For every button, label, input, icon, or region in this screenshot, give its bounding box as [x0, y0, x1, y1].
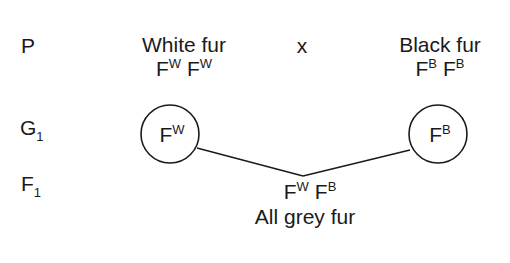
allele-superscript: B	[328, 179, 337, 194]
fertilisation-line-right	[303, 150, 410, 176]
fertilisation-line-left	[197, 148, 303, 176]
allele-base: F	[315, 180, 328, 203]
gametes-label-text: G	[20, 116, 36, 139]
parents-label-text: P	[21, 34, 35, 57]
offspring-phenotype: All grey fur	[255, 206, 355, 227]
allele-superscript: B	[442, 122, 451, 137]
cross-symbol: x	[297, 35, 308, 56]
allele-base: F	[416, 57, 429, 80]
allele-superscript: W	[297, 179, 309, 194]
f1-label-subscript: 1	[34, 185, 41, 200]
parent-left-genotype: FWFW	[156, 58, 212, 79]
f1-label-text: F	[21, 172, 34, 195]
allele-base: F	[284, 180, 297, 203]
allele-base: F	[156, 57, 169, 80]
parent-right-genotype: FBFB	[416, 58, 465, 79]
allele-superscript: W	[172, 122, 184, 137]
parent-left-phenotype: White fur	[142, 34, 226, 55]
offspring-genotype: FWFB	[284, 181, 337, 202]
gamete-left-allele: FW	[159, 124, 184, 145]
allele-superscript: W	[200, 56, 212, 71]
gametes-label-subscript: 1	[36, 129, 43, 144]
allele-superscript: W	[169, 56, 181, 71]
allele-base: F	[429, 123, 442, 146]
gamete-right-allele: FB	[429, 124, 451, 145]
allele-base: F	[443, 57, 456, 80]
row-label-gametes: G1	[20, 117, 44, 138]
row-label-f1: F1	[21, 173, 41, 194]
parent-right-phenotype: Black fur	[399, 34, 481, 55]
allele-superscript: B	[428, 56, 437, 71]
allele-base: F	[159, 123, 172, 146]
allele-superscript: B	[456, 56, 465, 71]
allele-base: F	[187, 57, 200, 80]
row-label-parents: P	[21, 35, 35, 56]
